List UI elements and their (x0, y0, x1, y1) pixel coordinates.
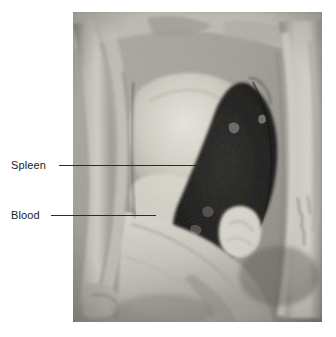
annotation-spleen-label: Spleen (0, 158, 46, 172)
photograph-canvas (73, 12, 322, 322)
figure-root: Spleen Blood (0, 0, 336, 337)
annotation-blood: Blood (0, 208, 40, 222)
annotation-spleen: Spleen (0, 158, 46, 172)
annotation-blood-label: Blood (0, 208, 40, 222)
autopsy-photograph (73, 12, 322, 322)
vignette (73, 12, 322, 322)
